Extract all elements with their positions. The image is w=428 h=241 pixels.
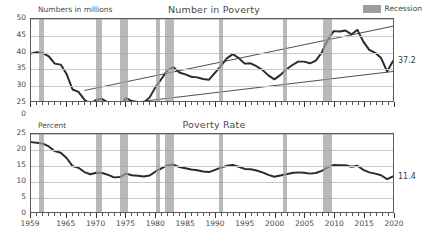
- gridline: [31, 198, 393, 199]
- x-tick: [30, 102, 31, 107]
- x-tick: [269, 213, 270, 216]
- recession-band: [323, 19, 333, 101]
- recession-band: [219, 19, 223, 101]
- x-tick: [167, 102, 168, 105]
- x-tick: [394, 213, 395, 218]
- x-tick: [281, 213, 282, 216]
- x-tick: [72, 213, 73, 216]
- x-tick: [281, 102, 282, 105]
- x-axis-label: 2005: [295, 219, 314, 228]
- recession-band: [120, 134, 128, 212]
- gridline: [31, 166, 393, 167]
- gridline: [31, 86, 393, 87]
- y-tick-label: 25: [16, 129, 26, 137]
- y-axis-ticks-bottom: 0510152025: [0, 133, 26, 213]
- x-tick: [120, 213, 121, 216]
- x-tick: [60, 213, 61, 216]
- x-axis-label: 2020: [384, 219, 403, 228]
- x-axis-label: 2000: [265, 219, 284, 228]
- recession-band: [323, 134, 333, 212]
- plot-area-number-in-poverty: [30, 18, 394, 102]
- x-tick: [179, 102, 180, 105]
- x-tick: [131, 102, 132, 105]
- x-tick: [215, 102, 216, 107]
- x-tick: [161, 213, 162, 216]
- y-tick-label: 40: [16, 48, 26, 56]
- recession-band: [283, 19, 287, 101]
- x-axis-label: 1980: [146, 219, 165, 228]
- x-tick: [137, 102, 138, 105]
- y-tick-label: 0: [21, 209, 26, 217]
- x-tick: [185, 102, 186, 107]
- x-tick: [209, 102, 210, 105]
- x-tick: [90, 213, 91, 216]
- x-tick: [358, 213, 359, 216]
- gridline: [31, 150, 393, 151]
- recession-band: [96, 19, 102, 101]
- x-axis-ticks-bottom: [30, 213, 394, 218]
- end-value-label-bottom: 11.4: [398, 172, 416, 181]
- x-tick: [125, 102, 126, 107]
- x-tick: [60, 102, 61, 105]
- x-tick: [310, 102, 311, 105]
- x-tick: [221, 213, 222, 216]
- x-tick: [149, 213, 150, 216]
- series-number-in-poverty: [31, 19, 393, 101]
- x-tick: [239, 213, 240, 216]
- x-tick: [161, 102, 162, 105]
- x-tick: [227, 213, 228, 216]
- x-tick: [203, 102, 204, 105]
- x-tick: [322, 102, 323, 105]
- x-tick: [388, 102, 389, 105]
- x-tick: [310, 213, 311, 216]
- x-axis-label: 2010: [325, 219, 344, 228]
- x-tick: [352, 213, 353, 216]
- gridline: [31, 19, 393, 20]
- x-tick: [251, 213, 252, 216]
- recession-band: [165, 19, 173, 101]
- x-tick: [42, 213, 43, 216]
- x-tick: [227, 102, 228, 105]
- x-axis-label: 1965: [56, 219, 75, 228]
- x-tick: [78, 102, 79, 105]
- x-tick: [42, 102, 43, 105]
- x-tick: [191, 213, 192, 216]
- x-tick: [114, 102, 115, 105]
- end-value-label-top: 37.2: [398, 56, 416, 65]
- x-tick: [102, 213, 103, 216]
- x-tick: [269, 102, 270, 105]
- y-tick-label: 10: [16, 177, 26, 185]
- gridline: [31, 182, 393, 183]
- x-tick: [66, 213, 67, 218]
- x-tick: [370, 213, 371, 216]
- x-tick: [328, 213, 329, 216]
- y-tick-label: 50: [16, 14, 26, 22]
- x-tick: [131, 213, 132, 216]
- x-tick: [382, 213, 383, 216]
- y-axis-ticks-top: 0253035404550: [0, 18, 26, 102]
- x-tick: [54, 213, 55, 216]
- x-tick: [90, 102, 91, 105]
- x-tick: [299, 102, 300, 105]
- x-tick: [96, 213, 97, 218]
- x-axis-labels: 1959196519701975198019851990199520002005…: [0, 219, 428, 233]
- x-tick: [275, 102, 276, 107]
- recession-band: [96, 134, 102, 212]
- gridline: [31, 69, 393, 70]
- y-tick-label: 0: [21, 110, 26, 118]
- x-tick: [108, 102, 109, 105]
- x-tick: [275, 213, 276, 218]
- x-tick: [233, 102, 234, 105]
- x-tick: [167, 213, 168, 216]
- x-tick: [257, 213, 258, 216]
- recession-band: [219, 134, 223, 212]
- x-tick: [48, 213, 49, 216]
- x-axis-label: 1970: [86, 219, 105, 228]
- x-tick: [36, 213, 37, 216]
- x-tick: [54, 102, 55, 105]
- recession-band: [39, 134, 44, 212]
- x-tick: [340, 213, 341, 216]
- recession-band: [165, 134, 173, 212]
- x-tick: [346, 213, 347, 216]
- x-tick: [358, 102, 359, 105]
